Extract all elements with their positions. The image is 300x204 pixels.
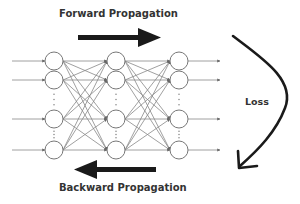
- neuron-node: [45, 110, 63, 128]
- neuron-node: [170, 71, 188, 89]
- neuron-node: [45, 141, 63, 159]
- neural-network-diagram: [0, 0, 300, 204]
- neuron-node: [170, 52, 188, 70]
- neuron-node: [45, 52, 63, 70]
- neuron-node: [170, 110, 188, 128]
- neuron-node: [170, 141, 188, 159]
- neuron-node: [107, 141, 125, 159]
- backward-arrow-icon: [74, 160, 156, 179]
- loss-curve-arrow-icon: [233, 36, 287, 168]
- neuron-node: [107, 52, 125, 70]
- neuron-node: [107, 110, 125, 128]
- neuron-node: [107, 71, 125, 89]
- forward-arrow-icon: [78, 28, 161, 47]
- neuron-node: [45, 71, 63, 89]
